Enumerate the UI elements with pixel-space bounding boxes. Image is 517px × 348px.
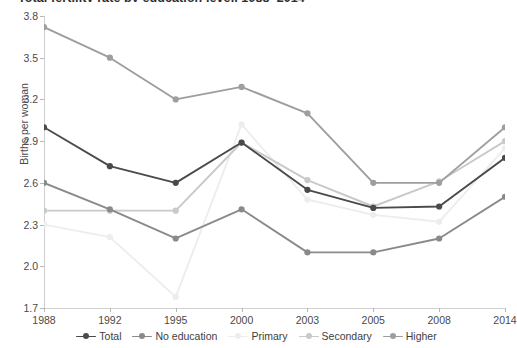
- x-tick-mark: [505, 308, 506, 312]
- x-tick-label: 2008: [427, 314, 450, 326]
- legend-label: Higher: [406, 330, 437, 342]
- legend-label: Primary: [251, 330, 287, 342]
- x-tick-label: 2014: [493, 314, 516, 326]
- legend-item-total[interactable]: Total: [76, 330, 121, 342]
- data-point: [304, 249, 310, 255]
- x-tick-mark: [373, 308, 374, 312]
- y-tick-label: 2.6: [4, 177, 38, 189]
- data-point: [238, 206, 244, 212]
- legend-item-higher[interactable]: Higher: [383, 330, 437, 342]
- x-tick-label: 2000: [230, 314, 253, 326]
- legend-label: No education: [155, 330, 217, 342]
- chart-legend: TotalNo educationPrimarySecondaryHigher: [0, 330, 513, 342]
- plot-area: [44, 16, 505, 308]
- legend-item-primary[interactable]: Primary: [228, 330, 287, 342]
- data-point: [238, 139, 244, 145]
- data-point: [44, 208, 47, 214]
- legend-swatch-icon: [299, 332, 319, 341]
- legend-swatch-icon: [383, 332, 403, 341]
- data-point: [44, 221, 47, 227]
- y-tick-label: 2.0: [4, 260, 38, 272]
- series-line: [44, 27, 505, 183]
- data-point: [370, 249, 376, 255]
- legend-swatch-icon: [132, 332, 152, 341]
- legend-label: Total: [99, 330, 121, 342]
- x-tick-label: 1988: [32, 314, 55, 326]
- x-tick-mark: [439, 308, 440, 312]
- series-secondary: [44, 138, 505, 214]
- data-point: [173, 96, 179, 102]
- y-tick-label: 2.3: [4, 219, 38, 231]
- y-tick-label: 1.7: [4, 302, 38, 314]
- data-point: [173, 235, 179, 241]
- series-line: [44, 183, 505, 253]
- series-no-education: [44, 180, 505, 256]
- legend-item-secondary[interactable]: Secondary: [299, 330, 372, 342]
- legend-item-no-education[interactable]: No education: [132, 330, 217, 342]
- legend-swatch-icon: [228, 332, 248, 341]
- series-lines: [44, 16, 505, 308]
- data-point: [107, 163, 113, 169]
- data-point: [304, 187, 310, 193]
- x-tick-mark: [307, 308, 308, 312]
- chart-title: Total fertility rate by education level,…: [18, 0, 305, 2]
- x-tick-label: 2005: [362, 314, 385, 326]
- data-point: [370, 212, 376, 218]
- x-tick-label: 1992: [98, 314, 121, 326]
- data-point: [304, 196, 310, 202]
- data-point: [370, 205, 376, 211]
- series-total: [44, 124, 505, 211]
- data-point: [304, 110, 310, 116]
- series-line: [44, 127, 505, 208]
- data-point: [173, 180, 179, 186]
- data-point: [107, 234, 113, 240]
- x-tick-mark: [242, 308, 243, 312]
- data-point: [238, 121, 244, 127]
- data-point: [173, 294, 179, 300]
- data-point: [107, 206, 113, 212]
- y-tick-label: 3.2: [4, 93, 38, 105]
- y-tick-label: 2.9: [4, 135, 38, 147]
- y-tick-label: 3.8: [4, 10, 38, 22]
- data-point: [436, 180, 442, 186]
- x-tick-mark: [44, 308, 45, 312]
- data-point: [436, 235, 442, 241]
- data-point: [436, 203, 442, 209]
- x-axis-line: [44, 308, 505, 309]
- data-point: [238, 84, 244, 90]
- legend-label: Secondary: [322, 330, 372, 342]
- data-point: [44, 180, 47, 186]
- x-tick-mark: [110, 308, 111, 312]
- series-line: [44, 141, 505, 211]
- x-tick-mark: [176, 308, 177, 312]
- data-point: [107, 55, 113, 61]
- data-point: [436, 219, 442, 225]
- data-point: [173, 208, 179, 214]
- data-point: [304, 177, 310, 183]
- legend-swatch-icon: [76, 332, 96, 341]
- x-tick-label: 2003: [296, 314, 319, 326]
- x-tick-label: 1995: [164, 314, 187, 326]
- data-point: [370, 180, 376, 186]
- y-axis-title: Births per woman: [18, 64, 30, 184]
- y-tick-label: 3.5: [4, 52, 38, 64]
